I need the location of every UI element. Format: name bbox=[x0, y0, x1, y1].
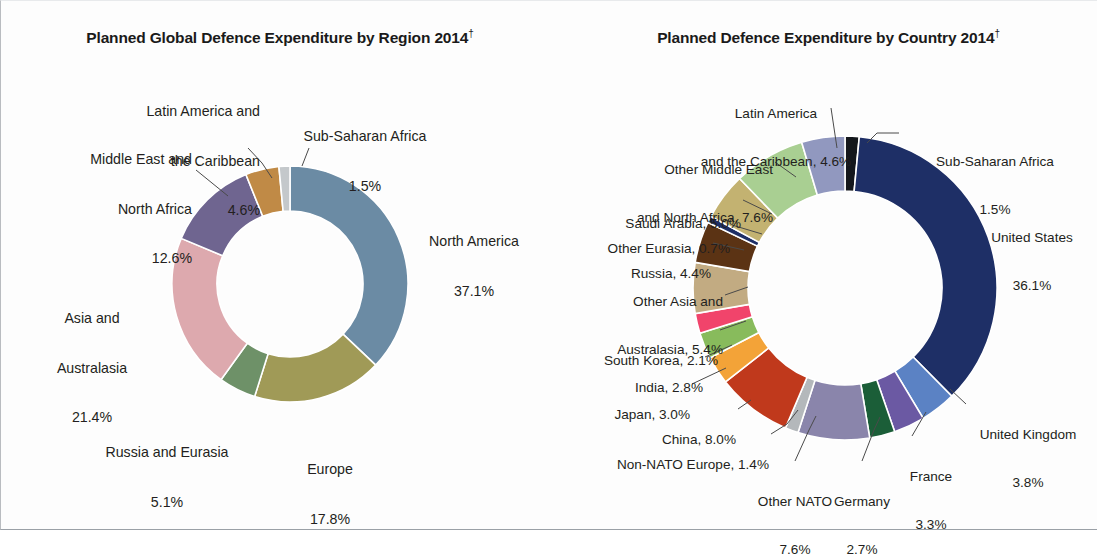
left-chart-title: Planned Global Defence Expenditure by Re… bbox=[0, 28, 560, 47]
left-label-north-america: North America 37.1% bbox=[400, 200, 548, 332]
right-chart-title-text: Planned Defence Expenditure by Country 2… bbox=[657, 29, 994, 46]
left-chart-title-text: Planned Global Defence Expenditure by Re… bbox=[86, 29, 468, 46]
left-label-europe: Europe 17.8% bbox=[275, 428, 385, 558]
left-label-russia-eurasia: Russia and Eurasia 5.1% bbox=[82, 411, 252, 543]
right-label-united-states: United States 36.1% bbox=[972, 198, 1092, 326]
left-chart-title-dagger: † bbox=[468, 28, 473, 39]
right-chart-title-dagger: † bbox=[994, 28, 999, 39]
right-chart-title: Planned Defence Expenditure by Country 2… bbox=[560, 28, 1097, 47]
left-label-middle-east-north-africa: Middle East and North Africa 12.6% bbox=[22, 118, 192, 300]
right-chart-panel: Planned Defence Expenditure by Country 2… bbox=[560, 0, 1097, 514]
right-label-united-kingdom: United Kingdom 3.8% bbox=[959, 395, 1097, 523]
left-chart-panel: Planned Global Defence Expenditure by Re… bbox=[0, 0, 560, 514]
